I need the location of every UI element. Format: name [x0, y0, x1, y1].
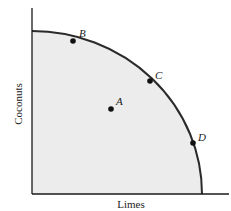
feasible-region [32, 31, 202, 194]
x-axis-label: Limes [117, 198, 145, 210]
ppf-svg: B C A D Limes Coconuts [0, 0, 231, 211]
point-c-marker [147, 78, 153, 84]
point-d-marker [190, 140, 196, 146]
point-b-label: B [79, 27, 86, 39]
point-b-marker [70, 38, 76, 44]
point-a-marker [108, 106, 114, 112]
point-c-label: C [155, 69, 163, 81]
point-d-label: D [197, 131, 206, 143]
ppf-chart: B C A D Limes Coconuts [0, 0, 231, 211]
point-a-label: A [115, 95, 123, 107]
y-axis-label: Coconuts [12, 83, 24, 125]
